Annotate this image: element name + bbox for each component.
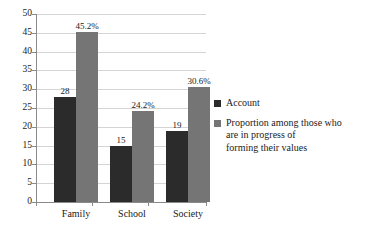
bar-account-school (110, 146, 132, 202)
bar-chart: 50 45 40 35 30 25 20 15 10 5 0 28 (0, 0, 371, 235)
gridline (36, 70, 206, 71)
y-axis-line (36, 14, 37, 203)
legend-label-proportion: Proportion among those whoare in progres… (226, 117, 342, 155)
legend-label-line3: forming their values (226, 142, 307, 153)
plot-area: 28 45.2% 15 24.2% 19 30.6% (36, 14, 206, 202)
x-axis-tick (206, 202, 207, 206)
legend-item-account: Account (214, 97, 366, 110)
y-axis-tick-label: 20 (23, 122, 33, 132)
y-axis-tick-label: 45 (23, 28, 33, 38)
bar-proportion-family (76, 32, 98, 202)
y-axis-tick-label: 40 (23, 47, 33, 57)
x-axis-category-school: School (118, 208, 146, 220)
y-axis-tick-labels: 50 45 40 35 30 25 20 15 10 5 0 (0, 14, 32, 202)
legend-label-account: Account (226, 97, 260, 110)
y-axis-tick-label: 50 (23, 9, 33, 19)
data-label-account-family: 28 (61, 87, 70, 96)
y-axis-tick-label: 10 (23, 160, 33, 170)
x-axis-line (36, 202, 207, 203)
legend-swatch-icon (214, 100, 221, 107)
bar-account-family (54, 97, 76, 202)
y-axis-tick-label: 35 (23, 66, 33, 76)
x-axis-tick (148, 202, 149, 206)
legend-label-line2: are in progress of (226, 129, 296, 140)
bar-proportion-school (132, 111, 154, 202)
legend-label-line1: Proportion among those who (226, 117, 342, 128)
legend-swatch-icon (214, 120, 221, 127)
y-axis-tick-label: 15 (23, 141, 33, 151)
gridline (36, 14, 206, 15)
legend-item-proportion: Proportion among those whoare in progres… (214, 117, 366, 155)
x-axis-category-society: Society (173, 208, 203, 220)
chart-legend: Account Proportion among those whoare in… (214, 97, 366, 161)
gridline (36, 33, 206, 34)
data-label-proportion-school: 24.2% (131, 101, 154, 110)
x-axis-category-family: Family (62, 208, 90, 220)
data-label-account-school: 15 (117, 136, 126, 145)
x-axis-tick (92, 202, 93, 206)
bar-proportion-society (188, 87, 210, 202)
data-label-proportion-family: 45.2% (75, 22, 98, 31)
y-axis-tick-label: 25 (23, 103, 33, 113)
data-label-proportion-society: 30.6% (187, 77, 210, 86)
y-axis-tick-label: 30 (23, 84, 33, 94)
data-label-account-society: 19 (173, 121, 182, 130)
bar-account-society (166, 131, 188, 202)
x-axis-tick (36, 202, 37, 206)
gridline (36, 52, 206, 53)
